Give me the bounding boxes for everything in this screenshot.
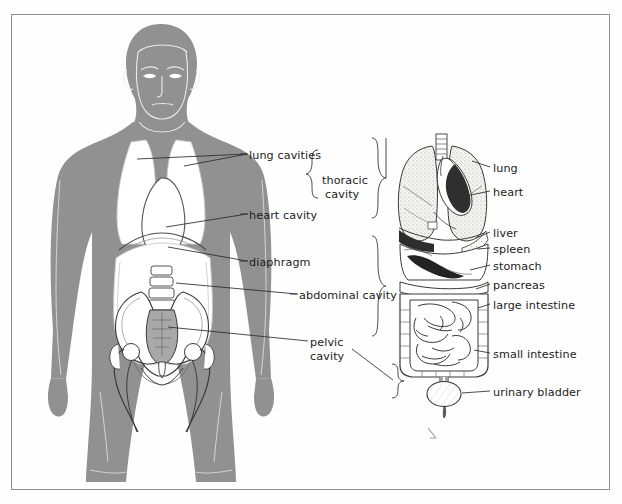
label-urinary-bladder: urinary bladder — [493, 386, 581, 400]
label-small-intestine: small intestine — [493, 348, 577, 362]
label-diaphragm: diaphragm — [249, 256, 311, 270]
leader-urinary-bladder — [462, 391, 490, 393]
thoracic-brace-right — [372, 138, 386, 218]
label-stomach: stomach — [493, 260, 542, 274]
cardiac-notch — [428, 222, 437, 229]
trachea — [436, 134, 447, 160]
right-femoral-head — [185, 344, 202, 361]
vertebra-l1 — [151, 266, 172, 275]
abdominal-brace — [372, 236, 386, 336]
human-silhouette-figure — [48, 24, 274, 482]
label-spleen: spleen — [493, 243, 531, 257]
label-heart-cavity: heart cavity — [249, 209, 317, 223]
label-heart: heart — [493, 186, 523, 200]
corner-mark-icon — [428, 428, 436, 438]
label-liver: liver — [493, 227, 518, 241]
left-hand — [48, 378, 68, 417]
right-hand — [254, 378, 274, 417]
label-lung-cavities: lung cavities — [249, 149, 321, 163]
label-pelvic-cavity-line1: pelvic — [310, 336, 344, 350]
left-femoral-head — [123, 344, 140, 361]
label-large-intestine: large intestine — [493, 299, 575, 313]
label-pelvic-cavity-line2: cavity — [310, 350, 344, 364]
label-thoracic-cavity-line1: thoracic — [322, 174, 368, 188]
label-abdominal-cavity: abdominal cavity — [299, 289, 397, 303]
label-lung: lung — [493, 162, 518, 176]
vertebra-l2 — [150, 277, 173, 286]
leader-pelvic-to-organ — [352, 349, 393, 380]
vertebra-l3 — [149, 288, 174, 298]
diagram-canvas: lung cavities heart cavity diaphragm abd… — [0, 0, 622, 504]
urinary-bladder — [427, 382, 461, 407]
urethra — [443, 406, 445, 418]
label-thoracic-cavity-line2: cavity — [325, 188, 359, 202]
label-pancreas: pancreas — [493, 279, 545, 293]
organ-figure — [398, 134, 488, 418]
